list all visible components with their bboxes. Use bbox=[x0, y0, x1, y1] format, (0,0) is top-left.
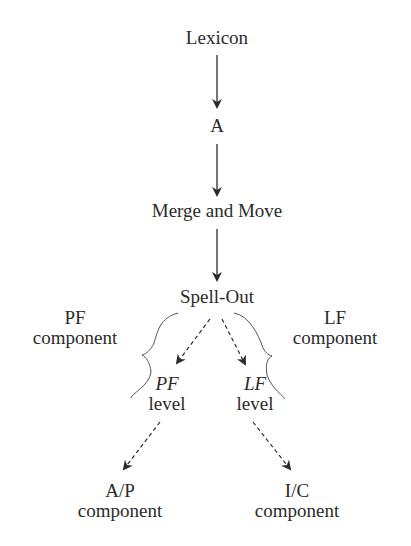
pf-component-line1: PF bbox=[10, 308, 140, 328]
node-lf-component: LF component bbox=[270, 308, 400, 348]
lf-component-line1: LF bbox=[270, 308, 400, 328]
ap-component-line2: component bbox=[55, 501, 185, 521]
node-ic-component: I/C component bbox=[232, 481, 362, 521]
dashed-arrow-pf-level-to-ap bbox=[124, 422, 160, 469]
dashed-arrow-spellout-to-pf-level bbox=[177, 319, 210, 363]
node-pf-level: PF level bbox=[137, 374, 197, 414]
ic-component-line1: I/C bbox=[232, 481, 362, 501]
node-ap-component: A/P component bbox=[55, 481, 185, 521]
pf-component-line2: component bbox=[10, 328, 140, 348]
ap-component-line1: A/P bbox=[55, 481, 185, 501]
node-lexicon: Lexicon bbox=[167, 28, 267, 48]
node-merge-and-move: Merge and Move bbox=[127, 201, 307, 221]
dashed-arrow-spellout-to-lf-level bbox=[222, 319, 245, 364]
ic-component-line2: component bbox=[232, 501, 362, 521]
pf-level-line2: level bbox=[137, 394, 197, 414]
dashed-arrow-lf-level-to-ic bbox=[253, 422, 290, 469]
pf-level-line1: PF bbox=[137, 374, 197, 394]
node-lf-level: LF level bbox=[225, 374, 285, 414]
lf-level-line1: LF bbox=[225, 374, 285, 394]
lf-component-line2: component bbox=[270, 328, 400, 348]
node-pf-component: PF component bbox=[10, 308, 140, 348]
diagram-connectors bbox=[0, 0, 411, 546]
lf-level-line2: level bbox=[225, 394, 285, 414]
node-a: A bbox=[197, 116, 237, 136]
node-spell-out: Spell-Out bbox=[157, 287, 277, 307]
